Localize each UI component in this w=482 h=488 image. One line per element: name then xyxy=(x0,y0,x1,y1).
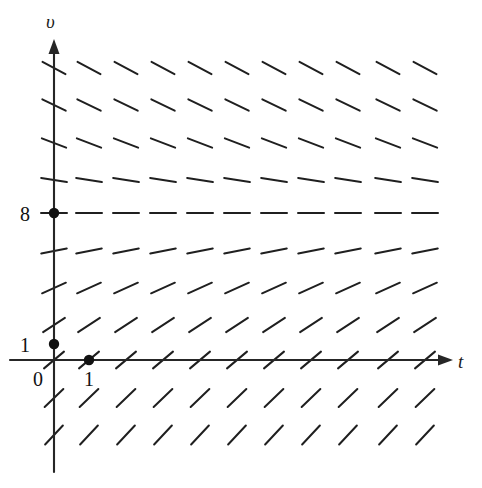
slope-tick xyxy=(228,425,246,444)
tick-label-t-1: 1 xyxy=(84,368,94,390)
slope-tick xyxy=(261,249,287,254)
slope-tick xyxy=(412,249,438,254)
slope-tick xyxy=(376,99,399,110)
slope-tick xyxy=(262,283,286,294)
slope-tick xyxy=(335,249,361,254)
point-t-1 xyxy=(84,355,94,365)
slope-tick xyxy=(77,138,101,147)
slope-tick xyxy=(152,62,175,74)
point-v-1 xyxy=(49,339,59,349)
slope-tick xyxy=(226,62,249,74)
slope-tick xyxy=(299,99,322,110)
slope-tick xyxy=(413,283,437,294)
slope-tick xyxy=(339,389,358,407)
slope-tick xyxy=(379,425,397,444)
slope-tick xyxy=(226,318,248,332)
slope-tick xyxy=(414,318,436,332)
slope-tick xyxy=(152,318,174,332)
slope-tick xyxy=(379,389,398,407)
slope-tick xyxy=(77,283,101,294)
slope-tick xyxy=(114,283,138,294)
tick-label-v-1: 1 xyxy=(20,334,30,356)
slope-field-plot: υ t 8 1 1 0 xyxy=(0,0,482,488)
slope-tick xyxy=(261,178,287,182)
slope-tick xyxy=(115,62,138,74)
v-axis-label: υ xyxy=(46,11,55,32)
slope-tick xyxy=(224,178,250,182)
slope-tick xyxy=(336,283,360,294)
slope-tick xyxy=(151,99,174,110)
slope-tick xyxy=(78,318,100,332)
slope-tick xyxy=(263,62,286,74)
slope-tick xyxy=(298,249,324,254)
slope-tick xyxy=(80,425,98,444)
slope-tick xyxy=(115,318,137,332)
slope-tick xyxy=(414,62,437,74)
slope-tick xyxy=(76,178,102,182)
slope-tick xyxy=(189,318,211,332)
slope-tick xyxy=(77,99,100,110)
slope-tick xyxy=(376,283,400,294)
slope-tick xyxy=(151,283,175,294)
slope-tick xyxy=(336,99,359,110)
point-v-8 xyxy=(49,208,59,218)
slope-tick xyxy=(225,138,249,147)
tick-label-v-8: 8 xyxy=(20,203,30,225)
slope-tick xyxy=(225,283,249,294)
slope-tick xyxy=(302,425,320,444)
slope-field-figure: υ t 8 1 1 0 xyxy=(0,0,482,488)
slope-tick xyxy=(337,62,360,74)
slope-tick xyxy=(189,62,212,74)
slope-tick xyxy=(80,389,99,407)
slope-tick xyxy=(299,283,323,294)
slope-tick xyxy=(300,62,323,74)
slope-tick xyxy=(413,99,436,110)
slope-tick xyxy=(187,178,213,182)
slope-tick xyxy=(337,318,359,332)
slope-tick xyxy=(377,318,399,332)
slope-tick xyxy=(336,138,360,147)
slope-tick xyxy=(191,425,209,444)
slope-tick xyxy=(263,318,285,332)
slope-tick xyxy=(113,178,139,182)
slope-tick xyxy=(299,138,323,147)
tick-label-origin: 0 xyxy=(33,368,43,390)
slope-tick xyxy=(262,99,285,110)
slope-tick xyxy=(188,283,212,294)
v-axis-arrowhead xyxy=(49,39,60,54)
t-axis-arrowhead xyxy=(438,355,453,366)
slope-tick xyxy=(114,138,138,147)
slope-tick xyxy=(300,318,322,332)
slope-tick xyxy=(262,138,286,147)
slope-tick xyxy=(187,249,213,254)
slope-tick xyxy=(224,249,250,254)
slope-tick xyxy=(78,62,101,74)
slope-tick xyxy=(76,249,102,254)
slope-tick xyxy=(225,99,248,110)
slope-tick xyxy=(117,389,136,407)
slope-tick xyxy=(376,138,400,147)
slope-tick xyxy=(339,425,357,444)
slope-tick xyxy=(265,389,284,407)
slope-tick xyxy=(228,389,247,407)
slope-tick xyxy=(117,425,135,444)
slope-tick xyxy=(151,138,175,147)
slope-tick xyxy=(154,389,173,407)
slope-tick xyxy=(114,99,137,110)
slope-tick xyxy=(298,178,324,182)
slope-tick xyxy=(416,425,434,444)
slope-tick xyxy=(154,425,172,444)
slope-tick xyxy=(265,425,283,444)
slope-tick xyxy=(302,389,321,407)
slope-tick xyxy=(188,99,211,110)
slope-tick xyxy=(416,389,435,407)
slope-tick xyxy=(375,178,401,182)
t-axis-label: t xyxy=(458,351,464,372)
slope-tick xyxy=(413,138,437,147)
slope-tick xyxy=(377,62,400,74)
slope-tick xyxy=(113,249,139,254)
slope-tick xyxy=(150,178,176,182)
slope-tick xyxy=(191,389,210,407)
slope-tick xyxy=(335,178,361,182)
slope-tick xyxy=(150,249,176,254)
